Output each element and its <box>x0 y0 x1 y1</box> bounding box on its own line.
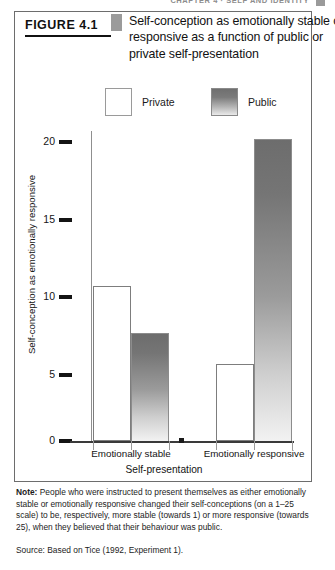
figure-box: FIGURE 4.1 Self-conception as emotionall… <box>14 11 312 482</box>
bar-private-emotionally-stable <box>93 286 131 441</box>
figure-note-lead: Note: <box>16 487 37 497</box>
x-category-label-emotionally-stable: Emotionally stable <box>71 448 191 459</box>
figure-note-text: People who were instructed to present th… <box>16 487 309 532</box>
bar-public-emotionally-responsive <box>254 139 292 441</box>
figure-source: Source: Based on Tice (1992, Experiment … <box>16 545 318 557</box>
bars-layer <box>15 12 313 441</box>
running-header: CHAPTER 4 · SELF AND IDENTITY <box>0 0 335 9</box>
figure-source-text: Based on Tice (1992, Experiment 1). <box>45 545 183 555</box>
running-header-text: CHAPTER 4 · SELF AND IDENTITY <box>170 0 309 5</box>
chart-plot-area: 20 15 10 5 0 Self-conception as emotiona… <box>15 12 313 483</box>
x-axis-title: Self-presentation <box>15 464 313 475</box>
x-axis-group-separator-icon <box>179 438 184 443</box>
x-category-label-emotionally-responsive: Emotionally responsive <box>193 448 315 459</box>
figure-note: Note: People who were instructed to pres… <box>16 487 318 533</box>
bar-private-emotionally-responsive <box>216 364 254 442</box>
bar-public-emotionally-stable <box>131 333 169 442</box>
page-marker-block-icon <box>316 0 325 6</box>
figure-source-lead: Source: <box>16 545 45 555</box>
